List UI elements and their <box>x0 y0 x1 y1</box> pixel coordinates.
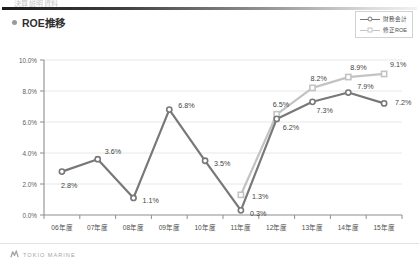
data-point-label: 6.2% <box>283 123 300 132</box>
data-point-marker <box>310 85 315 90</box>
data-point-label: 3.6% <box>105 147 122 156</box>
x-axis-tick-label: 08年度 <box>123 223 144 232</box>
data-point-label: 8.9% <box>350 63 367 72</box>
data-point-label: 3.5% <box>214 159 231 168</box>
data-point-label: 6.8% <box>178 101 195 110</box>
data-point-label: 7.3% <box>317 106 334 115</box>
tokio-marine-logo-icon <box>10 250 19 259</box>
data-point-marker <box>95 157 100 162</box>
chart-legend: 財務会計修正ROE <box>355 11 413 38</box>
data-point-marker <box>346 74 351 79</box>
x-axis-tick-label: 14年度 <box>338 223 359 232</box>
x-axis-tick-label: 07年度 <box>87 223 108 232</box>
x-axis-tick-label: 10年度 <box>194 223 215 232</box>
x-axis-tick-label: 09年度 <box>159 223 180 232</box>
data-point-label: 7.2% <box>395 98 412 107</box>
data-point-label: 6.5% <box>273 100 290 109</box>
footer-divider <box>0 243 419 244</box>
legend-label: 修正ROE <box>383 26 407 34</box>
y-axis-tick-label: 8.0% <box>22 88 37 95</box>
brand-logo-text: TOKIO MARINE <box>23 252 76 258</box>
x-axis-tick-label: 11年度 <box>230 223 251 232</box>
data-point-marker <box>167 107 172 112</box>
data-point-label: 9.1% <box>390 60 407 69</box>
chart-title: ROE推移 <box>22 15 65 30</box>
data-point-marker <box>310 99 315 104</box>
chart-plot-area: 0.0%2.0%4.0%6.0%8.0%10.0%06年度07年度08年度09年… <box>0 48 419 238</box>
y-axis-tick-label: 4.0% <box>22 150 37 157</box>
bullet-icon <box>12 20 17 25</box>
data-point-label: 0.3% <box>250 209 267 218</box>
data-point-marker <box>238 208 243 213</box>
data-point-marker <box>131 195 136 200</box>
legend-label: 財務会計 <box>383 15 407 23</box>
data-point-marker <box>382 101 387 106</box>
x-axis-tick-label: 13年度 <box>302 223 323 232</box>
data-point-label: 7.9% <box>357 82 374 91</box>
x-axis-tick-label: 15年度 <box>373 223 394 232</box>
y-axis-tick-label: 10.0% <box>19 57 37 64</box>
page-title: ROE推移 <box>12 15 65 30</box>
data-point-marker <box>346 90 351 95</box>
data-point-label: 1.3% <box>252 192 269 201</box>
roe-line-chart: 0.0%2.0%4.0%6.0%8.0%10.0%06年度07年度08年度09年… <box>0 48 419 238</box>
y-axis-tick-label: 0.0% <box>22 212 37 219</box>
data-point-label: 1.1% <box>143 196 160 205</box>
series-line-2 <box>241 74 384 195</box>
data-point-marker <box>274 116 279 121</box>
legend-item-1[interactable]: 財務会計 <box>360 15 407 23</box>
legend-swatch-square-icon <box>360 27 380 34</box>
brand-logo: TOKIO MARINE <box>10 250 76 259</box>
y-axis-tick-label: 2.0% <box>22 181 37 188</box>
y-axis-tick-label: 6.0% <box>22 119 37 126</box>
legend-swatch-circle-icon <box>360 16 380 23</box>
x-axis-tick-label: 12年度 <box>266 223 287 232</box>
data-point-marker <box>382 71 387 76</box>
header-divider <box>2 7 417 10</box>
data-point-label: 2.8% <box>61 181 78 190</box>
data-point-marker <box>59 169 64 174</box>
legend-item-2[interactable]: 修正ROE <box>360 26 407 34</box>
data-point-marker <box>238 192 243 197</box>
x-axis-tick-label: 06年度 <box>51 223 72 232</box>
data-point-marker <box>203 158 208 163</box>
data-point-label: 8.2% <box>311 74 328 83</box>
